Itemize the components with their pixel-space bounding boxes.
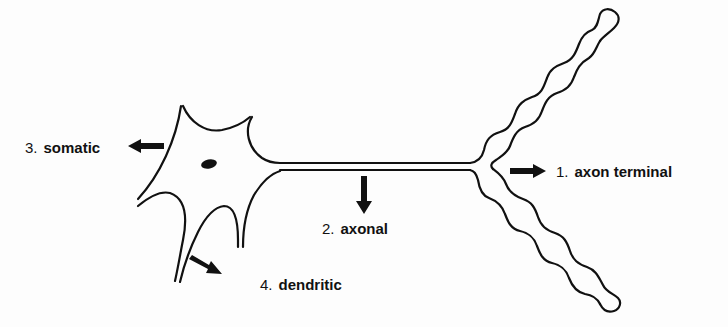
neuron-diagram: 1.axon terminal 2.axonal 3.somatic 4.den… bbox=[0, 0, 728, 327]
axon bbox=[280, 163, 470, 170]
label-number: 1. bbox=[556, 163, 569, 180]
label-axonal: 2.axonal bbox=[322, 221, 388, 236]
soma-outline bbox=[138, 106, 280, 282]
arrow-down-right-icon bbox=[189, 255, 222, 274]
nucleus bbox=[200, 158, 218, 170]
label-text: axon terminal bbox=[575, 163, 673, 180]
arrow-down-icon bbox=[356, 176, 372, 214]
label-number: 4. bbox=[260, 276, 273, 293]
label-text: axonal bbox=[341, 220, 389, 237]
label-axon-terminal: 1.axon terminal bbox=[556, 164, 672, 179]
label-dendritic: 4.dendritic bbox=[260, 277, 342, 292]
label-number: 2. bbox=[322, 220, 335, 237]
label-text: somatic bbox=[44, 139, 101, 156]
axon-terminal-branches bbox=[470, 9, 620, 311]
arrow-right-icon bbox=[510, 164, 546, 178]
arrow-left-icon bbox=[128, 139, 164, 153]
label-text: dendritic bbox=[279, 276, 342, 293]
label-number: 3. bbox=[25, 139, 38, 156]
label-somatic: 3.somatic bbox=[25, 140, 100, 155]
